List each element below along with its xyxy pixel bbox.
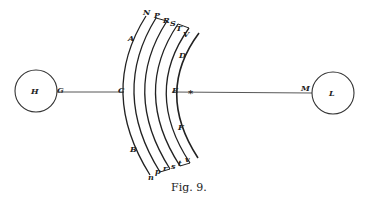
label-M: M [300, 83, 311, 93]
label-D: D [178, 50, 186, 60]
label-R: R [162, 15, 170, 25]
label-v: v [185, 154, 190, 164]
label-p: p [155, 166, 161, 176]
figure-9-diagram: H G L M N P R S T V n p r s t v A B D F … [0, 0, 366, 198]
label-N: N [142, 7, 151, 17]
figure-caption: Fig. 9. [171, 181, 207, 194]
label-V: V [183, 29, 190, 39]
label-T: T [176, 23, 183, 33]
label-A: A [127, 33, 134, 43]
label-E: E [171, 85, 179, 95]
left-circle-label: H [30, 86, 39, 96]
arc-connectors [156, 18, 190, 172]
star-mark: * [188, 88, 194, 99]
label-n: n [148, 172, 154, 182]
label-G: G [57, 85, 64, 95]
label-s: s [171, 161, 176, 171]
label-t: t [178, 158, 182, 168]
label-B: B [129, 144, 137, 154]
right-circle-label: L [328, 88, 335, 98]
label-C: C [118, 85, 125, 95]
label-P: P [153, 10, 161, 20]
